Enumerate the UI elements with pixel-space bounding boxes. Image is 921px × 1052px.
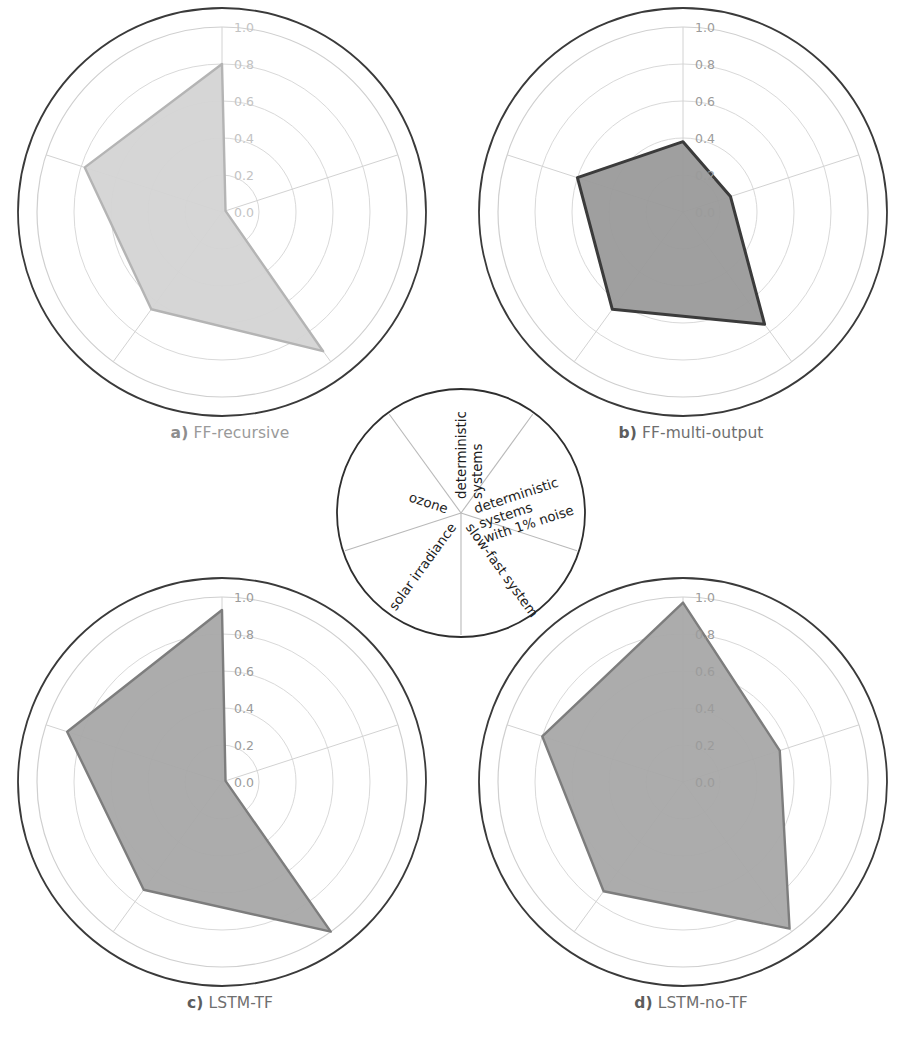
radial-tick-label: 0.8 [234, 627, 254, 642]
axis-spoke [222, 725, 398, 782]
panel-a-title: FF-recursive [193, 424, 289, 442]
radial-tick-label: 0.0 [695, 775, 715, 790]
radial-tick-label: 0.2 [234, 168, 254, 183]
radar-chart-a: 0.00.20.40.60.81.0 [0, 0, 460, 420]
radial-tick-label: 1.0 [695, 590, 715, 605]
legend-label-line: deterministic [454, 411, 469, 499]
panel-c-caption: c) LSTM-TF [0, 994, 460, 1012]
panel-c-tag: c) [187, 994, 203, 1012]
legend-wheel-svg: deterministicsystemsdeterministicsystems… [330, 382, 592, 644]
panel-d-caption: d) LSTM-no-TF [461, 994, 921, 1012]
radial-tick-label: 0.8 [695, 57, 715, 72]
panel-b-tag: b) [619, 424, 637, 442]
panel-d-tag: d) [634, 994, 652, 1012]
radial-tick-label: 0.0 [695, 205, 715, 220]
radar-polygon-c [67, 610, 331, 932]
radial-tick-label: 0.6 [695, 664, 715, 679]
axis-legend-wheel: deterministicsystemsdeterministicsystems… [330, 382, 592, 644]
radial-tick-label: 0.4 [234, 131, 254, 146]
radial-tick-label: 0.2 [695, 738, 715, 753]
legend-label-line: systems [470, 444, 485, 499]
radial-tick-label: 0.2 [695, 168, 715, 183]
radial-tick-label: 0.0 [234, 775, 254, 790]
panel-d-title: LSTM-no-TF [658, 994, 748, 1012]
radial-tick-label: 1.0 [234, 20, 254, 35]
radial-tick-label: 0.4 [695, 131, 715, 146]
panel-a-tag: a) [171, 424, 189, 442]
radial-tick-label: 0.4 [234, 701, 254, 716]
panel-b-title: FF-multi-output [642, 424, 764, 442]
radial-tick-label: 0.6 [234, 94, 254, 109]
axis-spoke [222, 155, 398, 212]
radial-tick-label: 0.6 [234, 664, 254, 679]
radial-tick-label: 0.4 [695, 701, 715, 716]
radar-polygon-a [85, 64, 323, 351]
radar-polygon-b [577, 142, 764, 325]
radial-tick-label: 1.0 [234, 590, 254, 605]
radar-figure: 0.00.20.40.60.81.0 a) FF-recursive 0.00.… [0, 0, 921, 1052]
radial-tick-label: 0.2 [234, 738, 254, 753]
radar-chart-b: 0.00.20.40.60.81.0 [461, 0, 921, 420]
radial-tick-label: 0.0 [234, 205, 254, 220]
radial-tick-label: 0.8 [234, 57, 254, 72]
panel-c-title: LSTM-TF [208, 994, 273, 1012]
radial-tick-label: 0.8 [695, 627, 715, 642]
radial-tick-label: 1.0 [695, 20, 715, 35]
radial-tick-label: 0.6 [695, 94, 715, 109]
